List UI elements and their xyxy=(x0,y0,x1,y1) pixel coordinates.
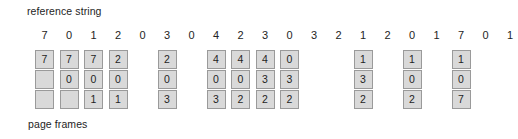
reference-string-value: 0 xyxy=(181,28,202,42)
reference-string-value: 2 xyxy=(230,28,251,42)
page-frame-cell: 0 xyxy=(403,70,422,89)
reference-string-value: 2 xyxy=(328,28,349,42)
page-frame-column: 102 xyxy=(403,50,422,109)
page-frame-cell: 3 xyxy=(158,90,177,109)
page-frame-cell: 2 xyxy=(280,90,299,109)
reference-string-value: 2 xyxy=(377,28,398,42)
page-frame-column: 7 xyxy=(35,50,54,109)
page-frame-cell: 0 xyxy=(84,70,103,89)
page-frame-column: 132 xyxy=(354,50,373,109)
page-frame-cell: 4 xyxy=(231,50,250,69)
page-frame-cell-empty xyxy=(60,90,79,109)
reference-string-value: 1 xyxy=(426,28,447,42)
reference-string-value: 4 xyxy=(206,28,227,42)
page-frame-cell: 2 xyxy=(256,90,275,109)
reference-string-value: 3 xyxy=(157,28,178,42)
fifo-page-replacement-figure: reference string 70120304230321201701 77… xyxy=(0,0,518,139)
page-frame-column: 403 xyxy=(207,50,226,109)
reference-string-value: 2 xyxy=(108,28,129,42)
page-frame-cell: 7 xyxy=(60,50,79,69)
page-frame-cell: 0 xyxy=(207,70,226,89)
reference-string-value: 1 xyxy=(83,28,104,42)
reference-string-value: 3 xyxy=(304,28,325,42)
reference-string-value: 0 xyxy=(475,28,496,42)
page-frame-cell: 0 xyxy=(60,70,79,89)
reference-string-value: 7 xyxy=(451,28,472,42)
page-frame-cell: 3 xyxy=(256,70,275,89)
page-frame-cell: 7 xyxy=(452,90,471,109)
page-frame-cell: 2 xyxy=(158,50,177,69)
page-frame-cell: 2 xyxy=(109,50,128,69)
page-frame-cell: 1 xyxy=(354,50,373,69)
page-frame-column: 402 xyxy=(231,50,250,109)
page-frame-cell: 0 xyxy=(280,50,299,69)
page-frame-cell: 2 xyxy=(403,90,422,109)
page-frame-cell: 3 xyxy=(280,70,299,89)
page-frame-column: 203 xyxy=(158,50,177,109)
page-frame-cell: 2 xyxy=(354,90,373,109)
reference-string-label: reference string xyxy=(27,5,102,17)
page-frame-column: 70 xyxy=(60,50,79,109)
page-frame-column: 107 xyxy=(452,50,471,109)
page-frame-cell: 0 xyxy=(452,70,471,89)
page-frame-cell: 3 xyxy=(354,70,373,89)
page-frame-cell-empty xyxy=(35,90,54,109)
page-frame-column: 032 xyxy=(280,50,299,109)
page-frame-column: 201 xyxy=(109,50,128,109)
reference-string-value: 0 xyxy=(279,28,300,42)
page-frame-cell: 7 xyxy=(84,50,103,69)
page-frame-cell: 0 xyxy=(158,70,177,89)
page-frame-cell: 3 xyxy=(207,90,226,109)
page-frame-cell: 0 xyxy=(109,70,128,89)
reference-string-value: 0 xyxy=(132,28,153,42)
page-frame-column: 701 xyxy=(84,50,103,109)
reference-string-value: 0 xyxy=(402,28,423,42)
page-frame-cell: 1 xyxy=(403,50,422,69)
page-frame-cell: 4 xyxy=(256,50,275,69)
reference-string-value: 7 xyxy=(34,28,55,42)
page-frames-label: page frames xyxy=(28,118,87,130)
page-frame-cell: 1 xyxy=(109,90,128,109)
reference-string-value: 3 xyxy=(255,28,276,42)
page-frame-cell: 0 xyxy=(231,70,250,89)
reference-string-value: 1 xyxy=(353,28,374,42)
reference-string-value: 1 xyxy=(500,28,518,42)
page-frame-column: 432 xyxy=(256,50,275,109)
page-frame-cell: 4 xyxy=(207,50,226,69)
page-frame-cell: 1 xyxy=(452,50,471,69)
page-frame-cell-empty xyxy=(35,70,54,89)
page-frame-cell: 1 xyxy=(84,90,103,109)
page-frame-cell: 2 xyxy=(231,90,250,109)
page-frame-cell: 7 xyxy=(35,50,54,69)
reference-string-value: 0 xyxy=(59,28,80,42)
